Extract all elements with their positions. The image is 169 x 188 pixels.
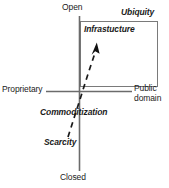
diagram-canvas: Open Closed Proprietary Public domain Ub…: [0, 0, 169, 188]
axis-label-public-domain-line1: Public: [134, 83, 157, 93]
axis-label-open: Open: [62, 3, 82, 13]
evolution-arrow-dashed-path: [68, 53, 95, 137]
axis-label-public-domain-line2: domain: [134, 93, 161, 103]
evolution-arrow: [68, 43, 100, 138]
axis-label-public-domain: Public domain: [134, 84, 168, 103]
axis-label-proprietary: Proprietary: [2, 85, 42, 95]
annotation-label-commoditization: Commoditization: [40, 108, 107, 118]
region-label-infrastructure: Infrastucture: [84, 25, 135, 35]
region-label-ubiquity: Ubiquity: [121, 8, 154, 18]
evolution-arrow-head-icon: [92, 43, 100, 55]
annotation-label-scarcity: Scarcity: [44, 138, 76, 148]
axis-label-closed: Closed: [60, 173, 86, 183]
